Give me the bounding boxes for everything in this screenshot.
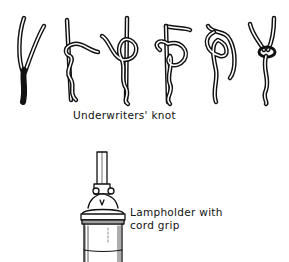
- lampholder-caption: Lampholder with cord grip: [130, 206, 223, 232]
- lampholder-caption-line2: cord grip: [130, 219, 223, 232]
- knot-step-4: [157, 26, 190, 104]
- knot-step-2: [66, 20, 98, 100]
- knot-caption: Underwriters' knot: [73, 109, 176, 122]
- lampholder-caption-line1: Lampholder with: [130, 206, 223, 219]
- knot-step-5: [207, 26, 235, 102]
- lampholder-illustration: [81, 152, 125, 262]
- knot-step-6: [250, 18, 275, 104]
- knot-step-1: [19, 18, 44, 102]
- knot-step-3: [102, 18, 136, 104]
